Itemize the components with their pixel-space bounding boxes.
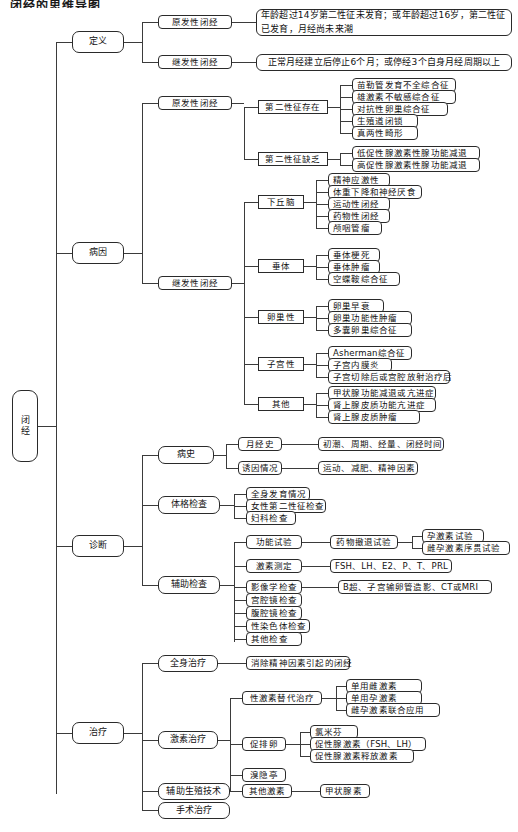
etiology-group-other[interactable]: 其他 xyxy=(258,397,304,411)
definition-child2-detail-line xyxy=(232,62,256,63)
ov-s0-line xyxy=(300,732,310,733)
diagnosis-node-auxexam[interactable]: 辅助检查 xyxy=(158,576,220,594)
hypo-i3-line xyxy=(316,216,328,217)
leaf-empty-sella[interactable]: 空蝶鞍综合征 xyxy=(328,272,400,286)
sexchar-absent-out xyxy=(328,159,340,160)
branch-etiology[interactable]: 病因 xyxy=(72,242,124,264)
pit-i1-line xyxy=(316,267,328,268)
detail-trigger-factors: 运动、减肥、精神因素 xyxy=(318,461,418,475)
hist-i0-detail-line xyxy=(282,444,318,445)
detail-thyroid-hormone: 甲状腺素 xyxy=(320,784,370,798)
leaf-laparoscopy[interactable]: 腹腔镜检查 xyxy=(246,606,302,620)
sc-present-i4-line xyxy=(340,133,352,134)
ov-i1-line xyxy=(316,318,328,319)
etiology-group-sexchar-absent[interactable]: 第二性征缺乏 xyxy=(258,152,328,166)
leaf-combined-estrogen-progesterone[interactable]: 雌孕激素联合应用 xyxy=(346,703,440,717)
sexchar-absent-spine xyxy=(340,153,341,165)
hypothalamus-out xyxy=(304,202,316,203)
sub-ovulation-induction[interactable]: 促排卵 xyxy=(242,737,286,751)
other-hormone-line xyxy=(230,791,242,792)
ax-i0-s1-line xyxy=(412,548,422,549)
sub-other-hormones[interactable]: 其他激素 xyxy=(242,784,292,798)
branch-diagnosis[interactable]: 诊断 xyxy=(72,535,124,557)
systemic-detail-line xyxy=(218,663,246,664)
hormone-tx-line xyxy=(142,740,158,741)
leaf-other-exam[interactable]: 其他检查 xyxy=(246,632,302,646)
uterine-out xyxy=(304,364,316,365)
leaf-gyn-exam[interactable]: 妇科检查 xyxy=(246,511,296,525)
ov-i2-line xyxy=(316,330,328,331)
ax-i1-detail-line xyxy=(302,566,330,567)
sc-absent-i0-line xyxy=(340,153,352,154)
leaf-pcos[interactable]: 多囊卵巢综合征 xyxy=(328,323,412,337)
hrt-out xyxy=(322,698,336,699)
branch-definition[interactable]: 定义 xyxy=(72,31,124,53)
leaf-sex-chromosome-exam[interactable]: 性染色体检查 xyxy=(246,619,310,633)
history-line xyxy=(142,455,158,456)
leaf-gnrh[interactable]: 促性腺激素释放激素 xyxy=(310,749,414,763)
definition-child-secondary[interactable]: 继发性闭经 xyxy=(158,55,232,69)
branch-line-etiology xyxy=(56,253,72,254)
hrt-line xyxy=(230,698,242,699)
ut-i2-line xyxy=(316,377,328,378)
treatment-node-surgery[interactable]: 手术治疗 xyxy=(158,802,230,819)
sc-absent-i1-line xyxy=(340,165,352,166)
history-out xyxy=(214,455,226,456)
root-node[interactable]: 闭经 xyxy=(12,390,38,462)
detail-hormone-assay: FSH、LH、E2、P、T、PRL xyxy=(330,559,452,573)
etiology-node-primary[interactable]: 原发性闭经 xyxy=(158,96,232,110)
hist-i1-line xyxy=(226,468,238,469)
leaf-hysteroscopy[interactable]: 宫腔镜检查 xyxy=(246,593,302,607)
physexam-line xyxy=(142,505,158,506)
etiology-other-out xyxy=(304,404,316,405)
leaf-craniopharyngioma[interactable]: 颅咽管瘤 xyxy=(328,221,382,235)
sub-function-test[interactable]: 功能试验 xyxy=(246,535,302,549)
sub-hormone-assay[interactable]: 激素测定 xyxy=(246,559,302,573)
sub-hormone-replacement[interactable]: 性激素替代治疗 xyxy=(242,691,322,705)
etiology-group-hypothalamus[interactable]: 下丘脑 xyxy=(258,195,304,209)
systemic-line xyxy=(142,663,158,664)
treatment-node-systemic[interactable]: 全身治疗 xyxy=(158,655,218,672)
sub-trigger-factors[interactable]: 诱因情况 xyxy=(238,461,282,475)
ovarian-out xyxy=(304,317,316,318)
sub-bromocriptine[interactable]: 溴隐亭 xyxy=(242,768,286,782)
sub-menstrual-history[interactable]: 月经史 xyxy=(238,437,282,451)
etiology-group-ovarian[interactable]: 卵巢性 xyxy=(258,310,304,324)
diagnosis-node-history[interactable]: 病史 xyxy=(158,446,214,464)
ax-i5-line xyxy=(234,626,246,627)
ov-s2-line xyxy=(300,756,310,757)
etiology-group-uterine[interactable]: 子宫性 xyxy=(258,357,304,371)
branch-line-diagnosis xyxy=(56,546,72,547)
page-title: 闭经的思维导图 xyxy=(10,0,101,8)
detail-systemic-treatment: 消除精神因素引起的闭经 xyxy=(246,656,350,670)
leaf-posthysterectomy[interactable]: 子宫切除后或宫腔放射治疗后 xyxy=(328,370,450,384)
leaf-true-hermaphroditism[interactable]: 真两性畸形 xyxy=(352,126,418,140)
treatment-node-hormone[interactable]: 激素治疗 xyxy=(158,731,218,749)
detail-drug-withdrawal-test[interactable]: 药物撤退试验 xyxy=(330,535,398,549)
hrt-s2-line xyxy=(336,710,346,711)
sub-imaging-exam[interactable]: 影像学检查 xyxy=(246,580,302,594)
etiology-primary-out xyxy=(232,103,244,104)
branch-treatment[interactable]: 治疗 xyxy=(72,722,124,744)
definition-child-primary[interactable]: 原发性闭经 xyxy=(158,15,232,29)
leaf-adrenal-tumor[interactable]: 肾上腺皮质肿瘤 xyxy=(328,410,420,424)
history-spine xyxy=(226,444,227,468)
definition-detail-primary: 年龄超过14岁第二性征未发育；或年龄超过16岁，第二性征已发育，月经尚未来潮 xyxy=(256,9,512,36)
sc-present-i3-line xyxy=(340,121,352,122)
physexam-out xyxy=(220,505,234,506)
treatment-out-line xyxy=(124,733,142,734)
diagnosis-node-physexam[interactable]: 体格检查 xyxy=(158,496,220,514)
etiology-secondary-out xyxy=(232,283,244,284)
treatment-node-art[interactable]: 辅助生殖技术 xyxy=(158,783,230,800)
leaf-estrogen-progesterone-sequential-test[interactable]: 雌孕激素序贯试验 xyxy=(422,541,510,555)
etiology-node-secondary[interactable]: 继发性闭经 xyxy=(158,276,232,290)
art-line xyxy=(142,791,158,792)
etiology-out-line xyxy=(124,253,142,254)
root-stub-line xyxy=(38,426,56,427)
ov-i0-line xyxy=(316,306,328,307)
leaf-hypergonadotropic[interactable]: 高促性腺激素性腺功能减退 xyxy=(352,158,480,172)
sc-present-i1-line xyxy=(340,97,352,98)
etiology-group-pituitary[interactable]: 垂体 xyxy=(258,259,304,273)
etiology-group-sexchar-present[interactable]: 第二性征存在 xyxy=(258,100,328,114)
bromocriptine-line xyxy=(230,775,242,776)
